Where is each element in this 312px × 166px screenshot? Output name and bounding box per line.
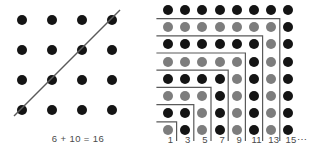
axis-label-9: 9 [231, 134, 248, 145]
figure-root: 6 + 10 = 16 13579111315⋯ [0, 0, 312, 166]
diagonal-cut-line-layer [0, 0, 156, 130]
axis-label-1: 1 [162, 134, 179, 145]
axis-label-11: 11 [248, 134, 265, 145]
axis-label-3: 3 [179, 134, 196, 145]
gnomon-7 [156, 70, 228, 141]
left-panel-square-split: 6 + 10 = 16 [0, 0, 156, 166]
gnomon-9 [156, 53, 245, 141]
gnomon-11 [156, 36, 262, 141]
gnomon-outline-layer [156, 0, 312, 132]
gnomon-13 [156, 19, 279, 141]
axis-label-7: 7 [214, 134, 231, 145]
diagonal-cut-line [14, 10, 120, 116]
axis-label-5: 5 [196, 134, 213, 145]
axis-label-13: 13 [265, 134, 282, 145]
axis-ellipsis: ⋯ [297, 134, 307, 145]
odd-number-axis-labels: 13579111315⋯ [162, 134, 307, 145]
left-panel-caption: 6 + 10 = 16 [0, 133, 156, 144]
right-panel-odd-gnomons: 13579111315⋯ [156, 0, 312, 166]
